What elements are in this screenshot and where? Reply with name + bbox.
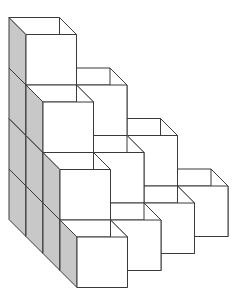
- cube: [26, 85, 94, 153]
- cube-diagram-svg: [0, 0, 240, 293]
- cube-front-face: [26, 35, 77, 86]
- cube: [43, 153, 111, 221]
- cube-front-face: [43, 102, 94, 153]
- cube-front-face: [60, 170, 111, 221]
- cube-front-face: [77, 237, 128, 288]
- cube-staircase-diagram: [0, 0, 240, 293]
- cube: [60, 220, 128, 288]
- cube: [9, 18, 77, 86]
